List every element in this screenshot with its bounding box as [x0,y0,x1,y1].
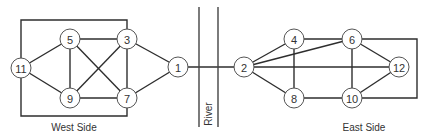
node-4: 4 [284,29,304,49]
node-label: 4 [291,34,297,46]
node-1: 1 [168,57,188,77]
node-label: 5 [67,34,73,46]
node-label: 6 [349,34,355,46]
node-label: 11 [15,63,26,75]
node-label: 12 [393,62,405,74]
node-12: 12 [389,57,409,77]
node-label: 9 [67,93,73,105]
node-label: 7 [124,93,130,105]
node-label: 1 [175,62,181,74]
node-label: 8 [291,93,297,105]
node-label: 2 [241,62,247,74]
node-8: 8 [284,88,304,108]
node-10: 10 [342,88,362,108]
river-label: River [203,102,214,126]
node-11: 11 [11,58,31,78]
east-side-label: East Side [343,122,386,133]
graph-diagram: River 115397124681012 West Side East Sid… [0,0,428,139]
node-3: 3 [117,29,137,49]
west-side-label: West Side [51,122,97,133]
node-label: 3 [124,34,130,46]
node-label: 10 [346,93,358,105]
node-6: 6 [342,29,362,49]
node-7: 7 [117,88,137,108]
node-9: 9 [60,88,80,108]
node-2: 2 [234,57,254,77]
node-5: 5 [60,29,80,49]
